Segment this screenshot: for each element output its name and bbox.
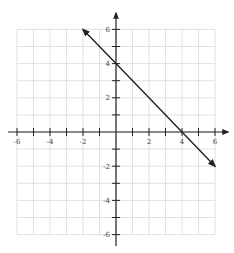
y-tick-label: -6 xyxy=(103,231,110,239)
y-tick-label: 4 xyxy=(106,60,111,68)
x-tick-label: -4 xyxy=(47,138,54,146)
x-tick-label: -6 xyxy=(14,138,21,146)
coordinate-plane: -6-4-2246642-2-4-6 xyxy=(0,0,234,253)
y-tick-label: -2 xyxy=(103,163,110,171)
x-tick-label: 4 xyxy=(180,138,185,146)
x-tick-label: 6 xyxy=(213,138,218,146)
axes xyxy=(8,13,228,246)
y-tick-label: 6 xyxy=(106,26,111,34)
y-tick-label: 2 xyxy=(106,94,110,102)
y-tick-label: -4 xyxy=(103,197,110,205)
x-tick-label: 2 xyxy=(147,138,151,146)
x-tick-label: -2 xyxy=(80,138,87,146)
